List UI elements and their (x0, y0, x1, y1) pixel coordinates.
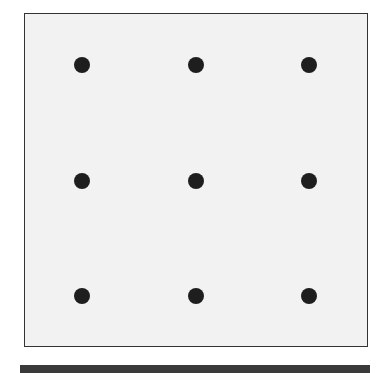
grid-dot-r1-c1 (74, 57, 90, 73)
grid-dot-r2-c2 (188, 173, 204, 189)
grid-dot-r2-c3 (301, 173, 317, 189)
grid-dot-r3-c2 (188, 288, 204, 304)
grid-dot-r3-c3 (301, 288, 317, 304)
bottom-bar (20, 365, 370, 373)
dot-grid-board (24, 13, 368, 347)
grid-dot-r3-c1 (74, 288, 90, 304)
grid-dot-r2-c1 (74, 173, 90, 189)
grid-dot-r1-c3 (301, 57, 317, 73)
grid-dot-r1-c2 (188, 57, 204, 73)
